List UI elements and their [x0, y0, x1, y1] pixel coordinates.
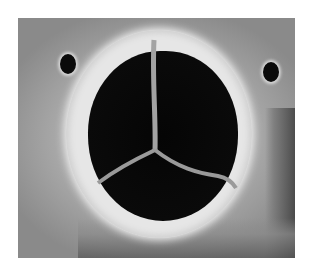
- cusp-lines: [18, 18, 295, 258]
- valve-photo: [18, 18, 295, 258]
